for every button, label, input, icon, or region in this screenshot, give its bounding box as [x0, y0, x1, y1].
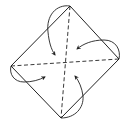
- origami-diagram: [0, 0, 128, 127]
- fold-arrow-bottom-icon: [61, 76, 83, 118]
- paper-square-outline: [11, 6, 119, 118]
- fold-arrow-left-icon: [11, 66, 45, 82]
- fold-arrow-right-icon: [77, 40, 119, 59]
- vertical-crease-line: [61, 6, 70, 118]
